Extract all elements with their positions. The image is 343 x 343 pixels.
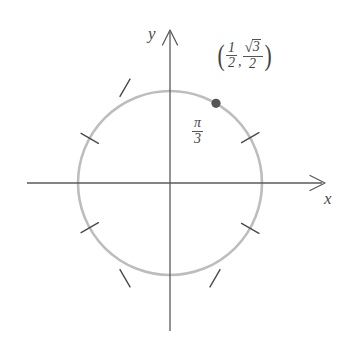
tick-mark — [242, 223, 259, 233]
y-coordinate-fraction: √32 — [243, 40, 263, 71]
tick-mark — [81, 133, 98, 143]
point-coordinate-label: (12,√32) — [216, 40, 273, 71]
x-coordinate-fraction: 12 — [226, 41, 237, 71]
x-coordinate-numerator: 1 — [226, 41, 237, 57]
tick-mark — [81, 223, 98, 233]
tick-mark — [242, 133, 259, 143]
unit-circle-figure: y x π 3 (12,√32) — [0, 0, 343, 343]
angle-fraction: π 3 — [192, 116, 203, 146]
tick-mark — [120, 79, 130, 96]
angle-label: π 3 — [192, 116, 203, 146]
x-axis-label: x — [324, 190, 332, 207]
open-paren: ( — [217, 41, 224, 70]
angle-denominator: 3 — [192, 132, 203, 147]
figure-canvas — [0, 0, 343, 343]
tick-mark — [210, 270, 220, 287]
y-axis — [163, 30, 178, 331]
x-coordinate-denominator: 2 — [226, 56, 237, 71]
close-paren: ) — [264, 41, 271, 70]
radicand: 3 — [252, 39, 261, 55]
y-coordinate-numerator: √3 — [243, 40, 263, 57]
angle-numerator: π — [192, 116, 203, 132]
tick-mark — [120, 270, 130, 287]
coordinate-comma: , — [237, 55, 243, 69]
marked-point — [211, 99, 220, 108]
y-axis-label: y — [148, 25, 156, 42]
x-axis — [27, 176, 325, 191]
square-root-icon: √3 — [245, 40, 261, 56]
y-coordinate-denominator: 2 — [243, 57, 263, 72]
